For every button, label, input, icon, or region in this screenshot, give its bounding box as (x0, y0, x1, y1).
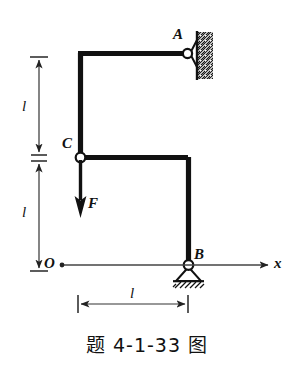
label-dim-vertical-upper: l (22, 99, 26, 114)
dimension-vertical-upper (30, 57, 48, 155)
label-dim-vertical-lower: l (22, 205, 26, 220)
ground-hatch-b (173, 282, 204, 288)
label-dim-horizontal: l (130, 286, 134, 301)
figure-root: A B C O F x l l l 题 4-1-33 图 (0, 0, 294, 370)
statics-frame-diagram (0, 0, 294, 370)
label-point-a: A (173, 27, 183, 42)
figure-caption: 题 4-1-33 图 (0, 330, 294, 357)
label-axis-x: x (274, 256, 282, 271)
label-point-c: C (62, 136, 72, 151)
label-point-b: B (194, 247, 204, 262)
wall-hatch-a (197, 32, 213, 79)
label-origin: O (44, 256, 55, 271)
frame-members (78, 53, 189, 265)
support-a (183, 31, 213, 80)
force-arrow-f (75, 160, 87, 218)
x-axis (60, 263, 268, 268)
label-force-f: F (88, 196, 98, 211)
origin-dot (60, 263, 65, 268)
pin-circle-a (183, 49, 192, 58)
